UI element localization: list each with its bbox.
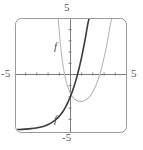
plot-canvas — [0, 0, 143, 150]
x-axis-left-label: -5 — [1, 68, 10, 79]
y-axis-bottom-label: -5 — [62, 132, 71, 143]
y-axis-top-label: 5 — [64, 2, 70, 13]
curve-label-f-prime: f′ — [54, 114, 59, 125]
figure-background — [0, 0, 143, 150]
graph-figure: 5 -5 -5 5 f f′ — [0, 0, 143, 150]
curve-label-f: f — [54, 41, 57, 52]
x-axis-right-label: 5 — [131, 68, 137, 79]
